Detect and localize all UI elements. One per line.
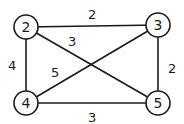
node-label: 3 — [154, 17, 163, 33]
node-2: 2 — [14, 15, 38, 39]
weight-2-5: 3 — [68, 34, 76, 49]
node-5: 5 — [146, 91, 170, 115]
node-label: 4 — [22, 95, 31, 111]
weight-2-3: 2 — [88, 7, 96, 22]
edge-2-3 — [26, 25, 158, 27]
graph-diagram: 2 3 4 5 2 3 2 3 4 5 — [0, 0, 184, 124]
weight-2-4: 4 — [8, 58, 16, 73]
edges — [26, 25, 158, 103]
node-label: 2 — [22, 19, 31, 35]
weight-3-5: 2 — [168, 61, 176, 76]
node-3: 3 — [146, 13, 170, 37]
weight-4-3: 5 — [51, 65, 59, 80]
node-label: 5 — [154, 95, 163, 111]
weight-4-5: 3 — [88, 110, 96, 124]
node-4: 4 — [14, 91, 38, 115]
